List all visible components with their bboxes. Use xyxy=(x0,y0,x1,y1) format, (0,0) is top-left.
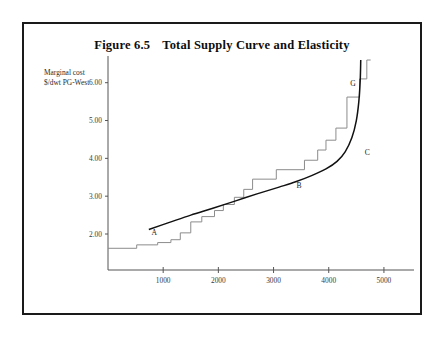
annotation-label-G: G xyxy=(350,79,356,88)
series-smooth-supply-curve xyxy=(149,60,361,229)
figure-frame: Figure 6.5Total Supply Curve and Elastic… xyxy=(22,22,422,315)
series-step-supply-schedule xyxy=(108,60,371,248)
y-axis-tick-label: 6.00 xyxy=(89,78,102,87)
annotation-label-A: A xyxy=(152,228,158,237)
x-axis-tick-label: 1000 xyxy=(156,276,171,285)
x-axis-tick-label: 3000 xyxy=(266,276,281,285)
supply-curve-plot: 2.003.004.005.006.0010002000300040005000… xyxy=(24,24,424,317)
annotation-label-C: C xyxy=(365,148,370,157)
x-axis-tick-label: 4000 xyxy=(321,276,336,285)
y-axis-tick-label: 3.00 xyxy=(89,192,102,201)
x-axis-tick-label: 2000 xyxy=(211,276,226,285)
x-axis-tick-label: 5000 xyxy=(377,276,392,285)
annotation-label-B: B xyxy=(296,181,301,190)
y-axis-tick-label: 2.00 xyxy=(89,230,102,239)
y-axis-tick-label: 4.00 xyxy=(89,154,102,163)
y-axis-tick-label: 5.00 xyxy=(89,116,102,125)
